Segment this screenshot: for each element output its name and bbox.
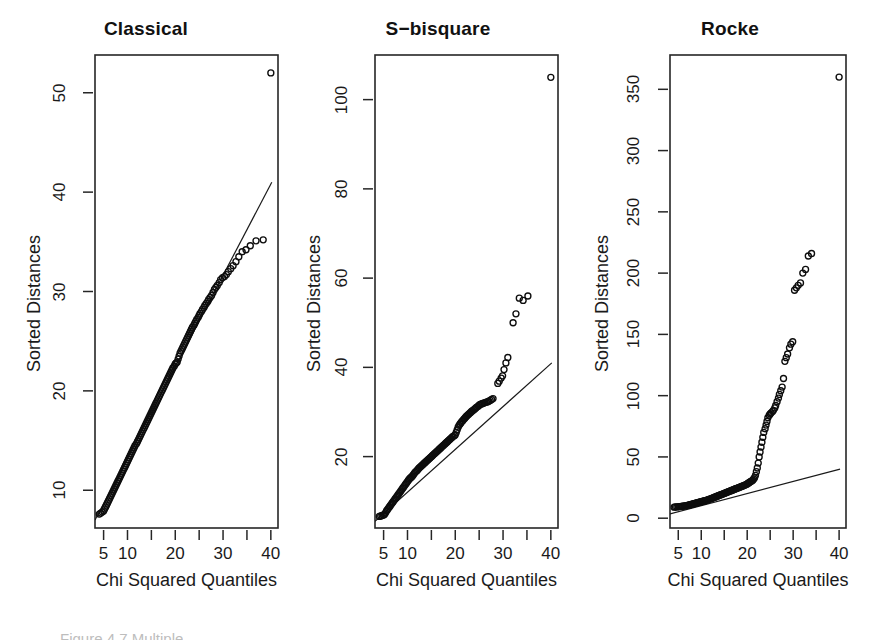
x-axis-title: Chi Squared Quantiles [70,570,303,591]
data-point [501,367,507,373]
y-tick-label: 50 [624,427,644,487]
reference-line [375,363,552,521]
data-point [785,351,791,357]
data-point [525,293,531,299]
data-point [268,70,274,76]
y-axis-title: Sorted Distances [24,234,45,371]
data-point [510,320,516,326]
y-tick-label: 40 [50,162,70,222]
x-tick-label: 40 [246,544,296,564]
panel-classical: Classical 5102030401020304050Chi Squared… [0,0,292,636]
data-point [253,238,259,244]
x-tick-label: 40 [526,544,576,564]
x-tick-label: 30 [768,544,818,564]
y-tick-label: 10 [50,460,70,520]
x-tick-label: 30 [198,544,248,564]
x-tick-label: 20 [150,544,200,564]
y-tick-label: 350 [624,59,644,119]
y-tick-label: 20 [332,427,352,487]
plot-frame [670,55,846,528]
y-tick-label: 300 [624,121,644,181]
x-tick-label: 10 [382,544,432,564]
data-point [247,243,253,249]
x-tick-label: 10 [676,544,726,564]
y-tick-label: 30 [50,262,70,322]
data-point [783,355,789,361]
data-point [779,384,785,390]
x-tick-label: 40 [814,544,864,564]
y-axis-title: Sorted Distances [592,234,613,371]
y-tick-label: 20 [50,361,70,421]
x-tick-label: 30 [478,544,528,564]
data-point [781,376,787,382]
data-point [836,74,842,80]
y-tick-label: 80 [332,159,352,219]
y-axis-title: Sorted Distances [304,234,325,371]
y-tick-label: 60 [332,248,352,308]
y-tick-label: 200 [624,243,644,303]
y-tick-label: 100 [624,366,644,426]
y-tick-label: 50 [50,63,70,123]
x-tick-label: 20 [722,544,772,564]
figure-caption: Figure 4.7 Multiple [60,630,183,640]
data-points [671,74,842,510]
panel-s-bisquare: S−bisquare 51020304020406080100Chi Squar… [292,0,584,636]
data-points [96,70,274,517]
y-tick-label: 150 [624,304,644,364]
data-point [513,311,519,317]
y-tick-label: 40 [332,337,352,397]
x-tick-label: 10 [102,544,152,564]
data-points [376,74,554,519]
data-point [786,345,792,351]
x-axis-title: Chi Squared Quantiles [645,570,871,591]
plot-frame [375,55,558,528]
data-point [505,355,511,361]
y-tick-label: 100 [332,70,352,130]
data-point [548,74,554,80]
plot-frame [95,55,278,528]
data-point [260,237,266,243]
x-axis-title: Chi Squared Quantiles [350,570,583,591]
data-point [778,388,784,394]
data-point [776,391,782,397]
y-tick-label: 250 [624,182,644,242]
x-tick-label: 20 [430,544,480,564]
y-tick-label: 0 [624,488,644,548]
data-point [782,358,788,364]
data-point [774,399,780,405]
panel-rocke: Rocke 510203040050100150200250300350Chi … [584,0,876,636]
